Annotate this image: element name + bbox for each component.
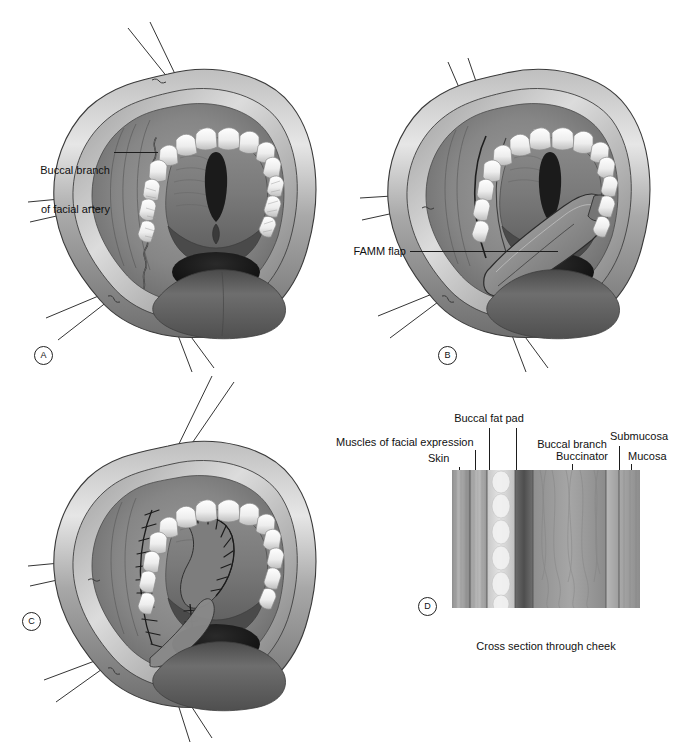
panel-d: Buccal fat pad Buccal branch of facial a… (330, 404, 678, 674)
panel-marker-b: B (438, 346, 457, 365)
panel-b: FAMM flap B (338, 0, 678, 372)
label-buccinator: Buccinator (556, 450, 608, 463)
label-buccal-branch-a: Buccal branch of facial artery (6, 138, 110, 242)
panel-c: C (0, 368, 340, 742)
label-line-2: of facial artery (6, 203, 110, 216)
band-submucosa (606, 470, 619, 608)
figure-famm-flap: Buccal branch of facial artery A (0, 0, 678, 742)
cross-section-diagram (452, 470, 640, 608)
leader-line-famm-flap-b (410, 251, 558, 252)
panel-marker-d: D (418, 597, 437, 616)
panel-a: Buccal branch of facial artery A (0, 0, 340, 372)
label-submucosa: Submucosa (610, 430, 668, 443)
label-famm-flap-b: FAMM flap (326, 245, 406, 258)
caption-cross-section: Cross section through cheek (452, 640, 640, 652)
leader-line-buccal-branch-a (114, 152, 158, 153)
label-muscles-facial-expression: Muscles of facial expression (336, 436, 474, 449)
label-line-1: Buccal branch (6, 164, 110, 177)
label-mucosa: Mucosa (628, 450, 667, 463)
panel-marker-a: A (34, 346, 53, 365)
band-muscles (470, 470, 487, 608)
label-skin: Skin (428, 452, 449, 465)
band-buccal-artery (515, 470, 533, 608)
panel-marker-c: C (22, 612, 41, 631)
panel-b-illustration (338, 0, 678, 372)
panel-c-illustration (0, 368, 340, 742)
band-mucosa (619, 470, 640, 608)
